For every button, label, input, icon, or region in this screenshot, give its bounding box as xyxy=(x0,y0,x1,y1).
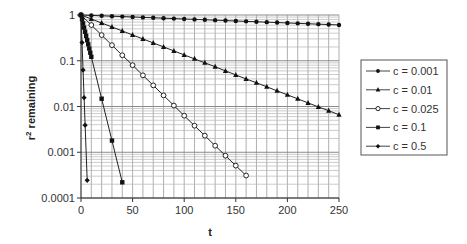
chart: 050100150200250 10.10.010.0010.0001 t r2… xyxy=(0,0,467,244)
circle-marker-icon xyxy=(234,19,238,23)
y-axis-title: r2 remaining xyxy=(24,76,37,140)
circle-marker-icon xyxy=(120,53,125,58)
square-marker-icon xyxy=(110,138,114,142)
x-tick-label: 250 xyxy=(330,204,348,216)
legend-label: c = 0.5 xyxy=(393,140,426,152)
circle-marker-icon xyxy=(376,69,380,73)
square-marker-icon xyxy=(83,30,87,34)
diamond-marker-icon xyxy=(85,178,90,183)
circle-marker-icon xyxy=(213,18,217,22)
y-tick-label: 0.1 xyxy=(60,55,75,67)
circle-marker-icon xyxy=(151,16,155,20)
circle-marker-icon xyxy=(110,14,114,18)
legend-label: c = 0.01 xyxy=(393,84,432,96)
legend-label: c = 0.001 xyxy=(393,65,439,77)
x-tick-label: 150 xyxy=(227,204,245,216)
x-tick-label: 0 xyxy=(78,204,84,216)
circle-marker-icon xyxy=(213,143,218,148)
y-tick-label: 1 xyxy=(69,9,75,21)
y-axis-ticks: 10.10.010.0010.0001 xyxy=(41,9,81,204)
circle-marker-icon xyxy=(99,14,103,18)
circle-marker-icon xyxy=(182,113,187,118)
circle-marker-icon xyxy=(254,20,258,24)
circle-marker-icon xyxy=(110,43,115,48)
circle-marker-icon xyxy=(172,16,176,20)
square-marker-icon xyxy=(99,97,103,101)
square-marker-icon xyxy=(89,55,93,59)
circle-marker-icon xyxy=(171,103,176,108)
square-marker-icon xyxy=(82,25,86,29)
circle-marker-icon xyxy=(161,93,166,98)
circle-marker-icon xyxy=(233,163,238,168)
series-0_01 xyxy=(78,12,341,117)
x-tick-label: 100 xyxy=(175,204,193,216)
x-axis-ticks: 050100150200250 xyxy=(78,198,348,216)
circle-marker-icon xyxy=(161,16,165,20)
circle-marker-icon xyxy=(244,19,248,23)
circle-marker-icon xyxy=(337,23,341,27)
circle-marker-icon xyxy=(203,18,207,22)
legend-label: c = 0.1 xyxy=(393,121,426,133)
data-series xyxy=(78,12,341,185)
circle-marker-icon xyxy=(130,63,135,68)
x-tick-label: 50 xyxy=(126,204,138,216)
circle-marker-icon xyxy=(306,22,310,26)
circle-marker-icon xyxy=(99,33,104,38)
circle-marker-icon xyxy=(223,18,227,22)
circle-marker-icon xyxy=(285,21,289,25)
circle-marker-icon xyxy=(244,173,249,178)
y-axis-title-rest: remaining xyxy=(25,76,37,132)
legend-label: c = 0.025 xyxy=(393,103,439,115)
square-marker-icon xyxy=(84,34,88,38)
legend: c = 0.001c = 0.01c = 0.025c = 0.1c = 0.5 xyxy=(361,60,447,155)
circle-marker-icon xyxy=(192,17,196,21)
circle-marker-icon xyxy=(130,15,134,19)
circle-marker-icon xyxy=(89,23,94,28)
circle-marker-icon xyxy=(151,83,156,88)
square-marker-icon xyxy=(87,46,91,50)
square-marker-icon xyxy=(80,17,84,21)
circle-marker-icon xyxy=(141,73,146,78)
square-marker-icon xyxy=(85,38,89,42)
series-line xyxy=(81,15,339,25)
square-marker-icon xyxy=(376,126,380,130)
y-tick-label: 0.01 xyxy=(54,101,75,113)
circle-marker-icon xyxy=(202,133,207,138)
circle-marker-icon xyxy=(376,107,380,111)
circle-marker-icon xyxy=(223,153,228,158)
x-tick-label: 200 xyxy=(278,204,296,216)
circle-marker-icon xyxy=(182,17,186,21)
circle-marker-icon xyxy=(120,14,124,18)
diamond-marker-icon xyxy=(83,123,88,128)
square-marker-icon xyxy=(120,180,124,184)
circle-marker-icon xyxy=(141,15,145,19)
y-tick-label: 0.001 xyxy=(47,146,75,158)
circle-marker-icon xyxy=(316,22,320,26)
circle-marker-icon xyxy=(265,20,269,24)
square-marker-icon xyxy=(86,42,90,46)
circle-marker-icon xyxy=(296,21,300,25)
square-marker-icon xyxy=(88,50,92,54)
circle-marker-icon xyxy=(326,22,330,26)
circle-marker-icon xyxy=(275,20,279,24)
diamond-marker-icon xyxy=(79,40,84,45)
diamond-marker-icon xyxy=(81,95,86,100)
x-axis-title: t xyxy=(208,226,212,238)
y-tick-label: 0.0001 xyxy=(41,192,75,204)
circle-marker-icon xyxy=(192,123,197,128)
